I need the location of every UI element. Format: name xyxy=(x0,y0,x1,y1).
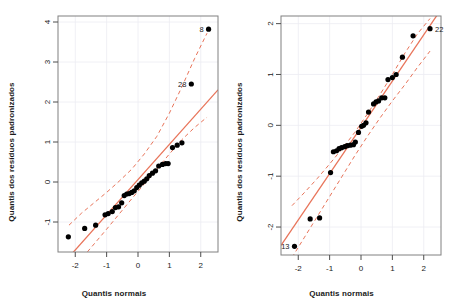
x-tick-label: 0 xyxy=(136,261,141,270)
x-tick-label: 1 xyxy=(390,264,395,273)
data-point xyxy=(353,140,358,145)
left-plot-canvas: -2-1012-101234828 xyxy=(0,0,228,304)
point-annotations: 2213 xyxy=(281,25,443,252)
data-point xyxy=(427,26,432,31)
right-y-axis-title-text: Quantis dos resíduos padronizados xyxy=(235,82,244,221)
data-point xyxy=(206,27,211,32)
data-point xyxy=(82,226,87,231)
y-tick-label: -1 xyxy=(266,172,275,180)
axes: -2-1012-101234 xyxy=(43,16,218,270)
data-point xyxy=(179,140,184,145)
y-tick-label: 4 xyxy=(43,19,52,24)
x-tick-label: -1 xyxy=(326,264,334,273)
data-point xyxy=(66,234,71,239)
y-tick-label: 1 xyxy=(43,139,52,144)
right-x-axis-title: Quantis normais xyxy=(228,289,455,298)
data-point xyxy=(189,81,194,86)
point-annotations: 828 xyxy=(178,25,204,89)
data-point xyxy=(292,244,297,249)
data-point xyxy=(410,33,415,38)
x-tick-label: -2 xyxy=(295,264,303,273)
y-tick-label: 0 xyxy=(43,179,52,184)
y-tick-label: -2 xyxy=(266,223,275,231)
data-point xyxy=(356,130,361,135)
data-point xyxy=(363,120,368,125)
point-annotation-label: 28 xyxy=(178,80,186,89)
left-x-axis-title: Quantis normais xyxy=(0,289,228,298)
point-annotation-label: 8 xyxy=(199,25,203,34)
right-y-axis-title: Quantis dos resíduos padronizados xyxy=(244,13,253,152)
x-tick-label: 2 xyxy=(199,261,204,270)
y-tick-label: 0 xyxy=(266,123,275,128)
data-point xyxy=(366,110,371,115)
x-tick-label: 1 xyxy=(167,261,172,270)
x-tick-label: -2 xyxy=(72,261,80,270)
grid-lines xyxy=(281,16,441,255)
right-qq-panel: -2-1012-2-10122213 Quantis normais Quant… xyxy=(228,0,455,304)
x-tick-label: -1 xyxy=(103,261,111,270)
point-annotation-label: 13 xyxy=(281,242,289,251)
right-plot-canvas: -2-1012-2-10122213 xyxy=(228,0,455,304)
data-point xyxy=(394,72,399,77)
data-point xyxy=(93,223,98,228)
qq-plot-figure: -2-1012-101234828 Quantis normais Quanti… xyxy=(0,0,455,304)
data-point xyxy=(328,170,333,175)
data-point xyxy=(166,161,171,166)
left-y-axis-title-text: Quantis dos resíduos padronizados xyxy=(7,82,16,221)
data-point xyxy=(175,143,180,148)
data-point xyxy=(308,216,313,221)
y-tick-label: 2 xyxy=(266,21,275,26)
x-tick-label: 2 xyxy=(422,264,427,273)
data-point xyxy=(153,168,158,173)
data-point xyxy=(400,55,405,60)
y-tick-label: 3 xyxy=(43,59,52,64)
left-qq-panel: -2-1012-101234828 Quantis normais Quanti… xyxy=(0,0,228,304)
data-point xyxy=(170,145,175,150)
data-point xyxy=(317,215,322,220)
data-point xyxy=(382,95,387,100)
y-tick-label: 1 xyxy=(266,72,275,77)
grid-lines xyxy=(58,16,218,252)
point-annotation-label: 22 xyxy=(435,25,443,34)
data-points xyxy=(66,27,211,240)
data-point xyxy=(119,200,124,205)
x-tick-label: 0 xyxy=(359,264,364,273)
y-tick-label: -1 xyxy=(43,218,52,226)
left-y-axis-title: Quantis dos resíduos padronizados xyxy=(16,13,25,152)
data-points xyxy=(292,26,433,249)
y-tick-label: 2 xyxy=(43,99,52,104)
